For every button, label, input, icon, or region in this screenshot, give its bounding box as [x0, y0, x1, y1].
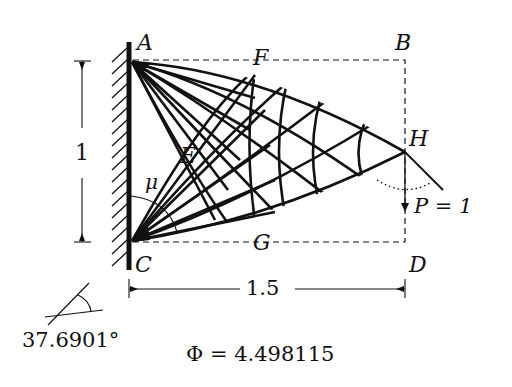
angle-value-label: 37.6901°	[22, 330, 119, 351]
load-label: P = 1	[414, 196, 472, 217]
point-d-label: D	[409, 254, 427, 276]
height-dimension-label: 1	[75, 142, 89, 164]
point-h-label: H	[409, 128, 428, 150]
point-b-label: B	[395, 32, 411, 54]
orthogonal-net	[132, 62, 382, 241]
angle-mu-label: μ	[145, 172, 158, 192]
point-e-label: E	[180, 145, 196, 167]
phi-value-label: Φ = 4.498115	[186, 344, 334, 365]
width-dimension-label: 1.5	[246, 278, 279, 299]
extension-line	[405, 152, 443, 190]
point-c-label: C	[135, 254, 152, 276]
point-a-label: A	[137, 32, 153, 54]
load-arrow	[401, 152, 409, 212]
point-f-label: F	[253, 47, 268, 69]
angle-glyph	[45, 283, 103, 325]
fixed-wall	[112, 42, 129, 270]
point-g-label: G	[253, 232, 271, 254]
